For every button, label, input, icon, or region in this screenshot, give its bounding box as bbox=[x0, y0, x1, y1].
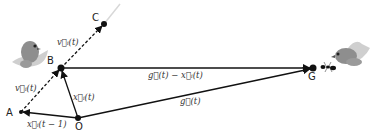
point-b bbox=[58, 65, 65, 72]
label-velocity-lower: v⃗ᵢ(t) bbox=[15, 83, 37, 93]
label-position-now: x⃗ᵢ(t) bbox=[73, 92, 95, 102]
vector-diagram: A B C O G v⃗ᵢ(t) v⃗ᵢ(t) x⃗ᵢ(t) x⃗ᵢ(t − 1… bbox=[0, 0, 376, 132]
label-position-prev: x⃗ᵢ(t − 1) bbox=[27, 119, 67, 129]
velocity-vector-bc bbox=[61, 26, 102, 68]
label-c: C bbox=[92, 12, 99, 23]
point-a bbox=[19, 110, 23, 114]
label-o: O bbox=[75, 121, 83, 132]
ant-icon bbox=[321, 62, 337, 72]
label-velocity-upper: v⃗ᵢ(t) bbox=[57, 37, 79, 47]
label-b: B bbox=[47, 55, 54, 66]
label-g: G bbox=[308, 71, 316, 82]
position-vector-prev bbox=[23, 112, 78, 118]
bird-icon bbox=[331, 42, 370, 66]
label-goal: g⃗(t) bbox=[180, 96, 201, 106]
bird-icon bbox=[12, 41, 48, 68]
label-goal-difference: g⃗(t) − x⃗ᵢ(t) bbox=[148, 70, 203, 80]
velocity-extension-line bbox=[104, 4, 120, 24]
label-a: A bbox=[6, 107, 13, 118]
point-c bbox=[101, 21, 107, 27]
